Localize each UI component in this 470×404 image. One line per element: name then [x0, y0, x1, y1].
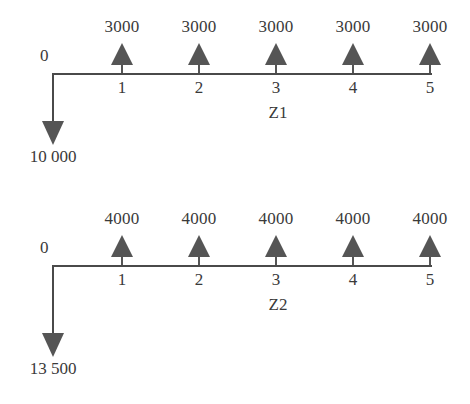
axis-title-z2: Z2 [238, 295, 318, 315]
tick-label-z1-5: 5 [400, 78, 460, 98]
tick-label-z1-2: 2 [169, 78, 229, 98]
tick-label-z1-4: 4 [323, 78, 383, 98]
tick-label-z2-1: 1 [92, 270, 152, 290]
arrow-stem [429, 253, 431, 265]
arrow-stem [429, 61, 431, 73]
tick-label-z2-2: 2 [169, 270, 229, 290]
origin-label-z1: 0 [40, 46, 49, 66]
arrow-stem [198, 253, 200, 265]
timeline-axis-z2 [52, 265, 432, 267]
tick-label-z1-1: 1 [92, 78, 152, 98]
tick-label-z2-5: 5 [400, 270, 460, 290]
arrow-down-icon [42, 121, 64, 145]
inflow-amount-z1-5: 3000 [385, 17, 470, 37]
inflow-amount-z2-5: 4000 [385, 209, 470, 229]
axis-title-z1: Z1 [238, 103, 318, 123]
timeline-axis-z1 [52, 73, 432, 75]
arrow-stem [198, 61, 200, 73]
tick-label-z1-3: 3 [246, 78, 306, 98]
arrow-stem [352, 253, 354, 265]
outflow-amount-z1: 10 000 [0, 147, 108, 167]
outflow-stem-z1 [52, 73, 54, 121]
cash-flow-diagram-z1: 0 10 000 3000 1 3000 2 3000 3 3000 [0, 0, 470, 196]
arrow-stem [121, 253, 123, 265]
outflow-amount-z2: 13 500 [0, 359, 108, 379]
tick-label-z2-4: 4 [323, 270, 383, 290]
cash-flow-diagram-z2: 0 13 500 4000 1 4000 2 4000 3 4000 [0, 192, 470, 404]
arrow-down-icon [42, 333, 64, 357]
arrow-stem [352, 61, 354, 73]
arrow-stem [275, 61, 277, 73]
cash-flow-figure: 0 10 000 3000 1 3000 2 3000 3 3000 [0, 0, 470, 404]
arrow-stem [275, 253, 277, 265]
arrow-stem [121, 61, 123, 73]
origin-label-z2: 0 [40, 238, 49, 258]
outflow-stem-z2 [52, 265, 54, 333]
tick-label-z2-3: 3 [246, 270, 306, 290]
